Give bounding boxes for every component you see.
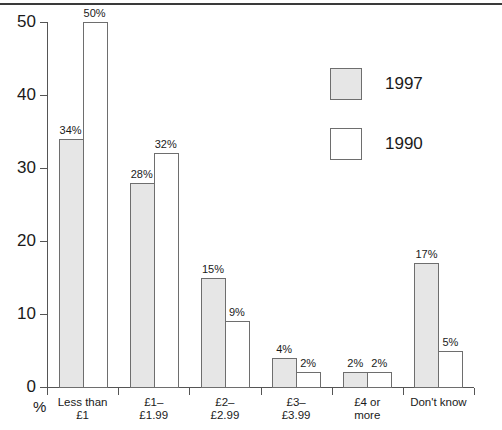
outlined-white-swatch [330,128,362,160]
x-axis-tick [189,388,190,395]
y-axis-tick-label: 10 [17,305,36,322]
legend-label: 1997 [385,75,423,92]
bar-1997-5 [343,372,368,388]
bar-value-label: 2% [288,358,328,369]
y-axis-tick [40,95,47,96]
x-axis-tick [332,388,333,395]
x-axis-category-label: £1– £1.99 [118,396,189,422]
y-axis-tick [40,314,47,315]
x-axis-category-label: Less than £1 [47,396,118,422]
filled-gray-swatch [330,68,362,100]
bar-value-label: 50% [75,8,115,19]
x-axis-tick [261,388,262,395]
x-axis-tick [403,388,404,395]
y-axis-unit-label: % [33,399,46,414]
x-axis-category-label: Don't know [403,396,474,409]
bar-value-label: 4% [264,344,304,355]
bar-value-label: 32% [146,139,186,150]
bar-1990-3 [225,321,250,388]
bar-1997-3 [201,278,226,389]
bar-value-label: 2% [359,358,399,369]
legend-label: 1990 [385,135,423,152]
bar-value-label: 28% [122,169,162,180]
y-axis-tick-label: 30 [17,159,36,176]
y-axis-tick-label: 50 [17,13,36,30]
y-axis-tick-label: 0 [27,378,36,395]
y-axis-tick [40,241,47,242]
y-axis-line [47,22,48,388]
bar-value-label: 9% [217,307,257,318]
x-axis-tick [118,388,119,395]
y-axis-tick [40,22,47,23]
bar-1990-5 [367,372,392,388]
y-axis-tick-label: 40 [17,86,36,103]
bar-1997-2 [130,183,155,388]
bar-value-label: 5% [430,337,470,348]
bar-1990-2 [154,153,179,388]
x-axis-tick [47,388,48,395]
y-axis-tick-label: 20 [17,232,36,249]
bar-value-label: 15% [193,264,233,275]
y-axis-tick [40,387,47,388]
bar-value-label: 34% [51,125,91,136]
bar-1990-1 [83,22,108,388]
bar-1990-6 [438,351,463,389]
bar-1990-4 [296,372,321,388]
x-axis-category-label: £4 or more [332,396,403,422]
bar-chart: 01020304050 34%50%28%32%15%9%4%2%2%2%17%… [0,0,502,430]
x-axis-category-label: £2– £2.99 [189,396,260,422]
bar-1997-1 [59,139,84,388]
bar-1997-6 [414,263,439,388]
top-border-rule [0,3,502,5]
x-axis-tick [474,388,475,395]
bar-value-label: 17% [406,249,446,260]
x-axis-category-label: £3– £3.99 [261,396,332,422]
y-axis-tick [40,168,47,169]
